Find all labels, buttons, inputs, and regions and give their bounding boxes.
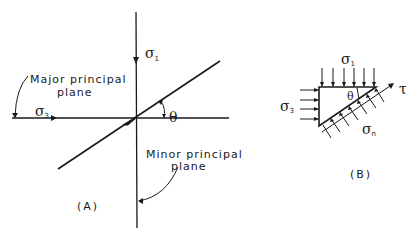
panel-a-sigma1-label: σ1 bbox=[145, 45, 159, 63]
tau-arrow-icon bbox=[388, 83, 394, 89]
panel-b-sigma3-label: σ3 bbox=[280, 98, 294, 115]
panel-b-caption: (B) bbox=[350, 168, 372, 181]
panel-a-theta-label: θ bbox=[169, 109, 177, 125]
panel-a bbox=[12, 12, 229, 228]
panel-b bbox=[300, 68, 394, 138]
panel-b-sigman-label: σn bbox=[362, 121, 376, 138]
panel-b-sigma1-label: σ1 bbox=[341, 51, 355, 68]
major-plane-leader bbox=[15, 76, 28, 117]
origin-wedge bbox=[123, 118, 136, 125]
minor-principal-plane-line bbox=[136, 12, 137, 228]
tau-shear-line bbox=[322, 86, 390, 132]
panel-a-sigma3-label: σ3 bbox=[35, 103, 49, 120]
panel-b-theta-label: θ bbox=[347, 90, 354, 103]
panel-a-caption: (A) bbox=[77, 200, 99, 213]
panel-b-theta-arc bbox=[357, 88, 359, 99]
principal-stress-diagram: σ1 σ3 θ Major principal plane Minor prin… bbox=[0, 0, 415, 237]
major-plane-leader-arrow-icon bbox=[12, 113, 18, 118]
panel-b-tau-label: τ bbox=[399, 81, 407, 97]
major-plane-label-line1: Major principal bbox=[30, 73, 126, 86]
sigma1-arrow-icon bbox=[133, 57, 139, 64]
major-plane-label-line2: plane bbox=[57, 86, 93, 99]
sigma1-load-arrows bbox=[320, 68, 376, 87]
minor-plane-leader-arrow-icon bbox=[138, 198, 143, 204]
sigma3-load-arrows bbox=[300, 88, 319, 121]
minor-plane-label-line2: plane bbox=[171, 160, 207, 173]
sigma3-arrow-icon bbox=[51, 115, 57, 121]
